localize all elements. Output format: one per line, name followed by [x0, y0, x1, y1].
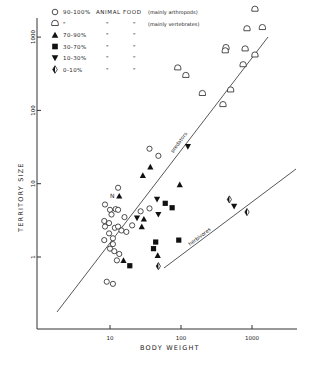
half-circle-marker — [242, 46, 248, 51]
half-circle-marker — [220, 101, 226, 106]
legend-ditto: " — [133, 67, 136, 73]
legend-item: 90-100%ANIMAL FOOD(mainly arthropods) — [52, 9, 197, 16]
triangle-up-marker — [155, 252, 161, 258]
open-circle-marker — [138, 209, 143, 214]
open-circle-marker — [102, 218, 107, 223]
open-circle-marker — [110, 281, 115, 286]
y-tick-label: 100 — [30, 105, 36, 116]
open-circle-marker — [115, 207, 120, 212]
x-tick-label: 100 — [176, 335, 187, 341]
legend-text: ANIMAL FOOD — [96, 9, 141, 15]
x-tick-label: 10 — [107, 335, 114, 341]
open-circle-marker — [112, 249, 117, 254]
open-circle-marker — [104, 279, 109, 284]
data-points — [102, 6, 266, 286]
half-circle-marker — [52, 20, 59, 25]
open-circle-marker — [102, 224, 107, 229]
half-circle-marker — [183, 72, 189, 77]
axes — [37, 18, 297, 329]
triangle-up-marker — [147, 164, 153, 170]
open-circle-marker — [156, 153, 161, 158]
y-tick-label: 1 — [30, 255, 36, 259]
legend-item: 30-70%"" — [52, 44, 135, 50]
legend-percent: 30-70% — [63, 44, 87, 50]
open-circle-marker — [147, 206, 152, 211]
n-annotation: N — [110, 192, 115, 199]
triangle-down-marker — [231, 204, 237, 210]
open-circle-marker — [109, 212, 114, 217]
triangle-up-marker — [139, 223, 145, 229]
legend-percent: " — [63, 21, 66, 27]
legend-note: (mainly vertebrates) — [148, 21, 199, 28]
legend-ditto: " — [106, 55, 109, 61]
square-marker — [170, 205, 175, 210]
legend-ditto: " — [106, 21, 109, 27]
open-circle-marker — [147, 146, 152, 151]
triangle-down-marker — [154, 197, 160, 203]
legend-percent: 70-90% — [63, 32, 87, 38]
axis-ticks: 1010010001101001000 — [30, 30, 259, 341]
legend-ditto: " — [106, 44, 109, 50]
triangle-down-marker — [155, 212, 161, 218]
open-circle-marker — [102, 202, 107, 207]
half-circle-marker — [244, 26, 250, 31]
triangle-up-marker — [141, 216, 147, 222]
x-axis-label: BODY WEIGHT — [140, 344, 200, 352]
half-circle-marker — [199, 90, 205, 95]
open-circle-marker — [122, 215, 127, 220]
y-tick-label: 10 — [30, 180, 36, 187]
legend-note: (mainly arthropods) — [148, 9, 198, 16]
legend-ditto: " — [106, 67, 109, 73]
half-circle-marker — [259, 24, 265, 29]
series-filled-triangle-up — [116, 164, 183, 263]
open-circle-marker — [102, 238, 107, 243]
legend-item: """(mainly vertebrates) — [52, 20, 200, 27]
half-circle-marker — [222, 48, 228, 53]
triangle-up-marker — [177, 182, 183, 188]
legend-percent: 0-10% — [63, 67, 83, 73]
diamond-marker — [53, 66, 58, 74]
triangle-down-marker — [52, 55, 59, 61]
square-marker — [153, 239, 158, 244]
legend: 90-100%ANIMAL FOOD(mainly arthropods)"""… — [52, 9, 200, 73]
triangle-down-marker — [185, 144, 191, 150]
open-circle-marker — [124, 229, 129, 234]
square-marker — [176, 238, 181, 243]
triangle-up-marker — [116, 193, 122, 199]
legend-percent: 10-30% — [63, 55, 87, 61]
series-filled-square — [127, 201, 181, 269]
legend-ditto: " — [133, 55, 136, 61]
y-tick-label: 1000 — [30, 30, 36, 44]
x-tick-label: 1000 — [245, 335, 259, 341]
diamond-marker — [156, 263, 160, 270]
half-circle-marker — [240, 62, 246, 67]
half-circle-marker — [228, 87, 234, 92]
legend-item: 10-30%"" — [52, 55, 136, 61]
triangle-up-marker — [120, 257, 126, 263]
legend-ditto: " — [133, 44, 136, 50]
legend-ditto: " — [106, 32, 109, 38]
y-axis-label: TERRITORY SIZE — [17, 162, 25, 233]
predators-regression-line — [57, 37, 268, 312]
square-marker — [127, 263, 132, 268]
half-circle-marker — [175, 65, 181, 70]
diamond-marker — [245, 208, 249, 215]
open-circle-marker — [52, 9, 58, 15]
half-circle-marker — [252, 52, 258, 57]
open-circle-marker — [119, 228, 124, 233]
herbivores-regression-line — [164, 169, 296, 268]
open-circle-marker — [114, 258, 119, 263]
predators-line-label: predators — [169, 130, 189, 154]
square-marker — [151, 246, 156, 251]
legend-ditto: " — [133, 21, 136, 27]
herbivores-line-label: herbivores — [187, 226, 212, 247]
scatter-chart: 1010010001101001000 BODY WEIGHT TERRITOR… — [0, 0, 313, 365]
square-marker — [163, 201, 168, 206]
triangle-up-marker — [140, 172, 146, 178]
legend-item: 0-10%"" — [53, 66, 136, 74]
open-circle-marker — [130, 223, 135, 228]
square-marker — [52, 44, 58, 50]
half-circle-marker — [252, 6, 258, 11]
triangle-up-marker — [52, 32, 59, 38]
triangle-down-marker — [134, 215, 140, 221]
